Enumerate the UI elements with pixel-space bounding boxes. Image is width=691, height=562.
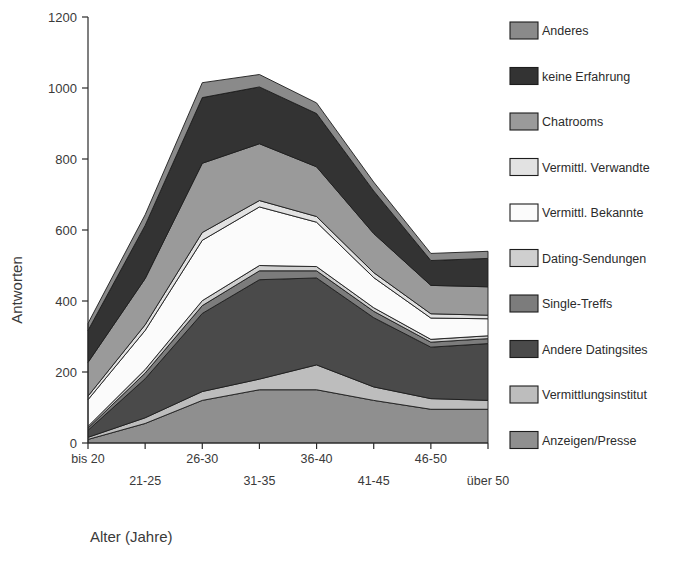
legend-label: Anzeigen/Presse [542,434,637,448]
legend-swatch [510,386,538,403]
legend-swatch [510,22,538,39]
y-tick-label: 600 [55,223,77,238]
legend-item[interactable]: Single-Treffs [510,295,612,312]
chart-canvas: 020040060080010001200 bis 2021-2526-3031… [0,0,691,562]
legend-swatch [510,295,538,312]
x-category-label: 36-40 [301,452,333,466]
legend-item[interactable]: Vermittl. Bekannte [510,204,643,221]
legend-label: Chatrooms [542,115,603,129]
legend-label: Vermittl. Bekannte [542,206,643,220]
legend-swatch [510,113,538,130]
legend-label: Single-Treffs [542,297,612,311]
legend-label: Vermittlungsinstitut [542,388,647,402]
stacked-area-chart: 020040060080010001200 bis 2021-2526-3031… [0,0,691,562]
y-tick-label: 400 [55,294,77,309]
legend-label: Andere Datingsites [542,343,648,357]
y-tick-label: 1200 [48,10,77,25]
legend: Andereskeine ErfahrungChatroomsVermittl.… [510,22,650,449]
x-axis-title: Alter (Jahre) [90,528,173,545]
legend-item[interactable]: Anzeigen/Presse [510,432,637,449]
legend-swatch [510,68,538,85]
plot-area-bands [88,75,488,443]
x-category-label: 46-50 [415,452,447,466]
x-category-labels: bis 2021-2526-3031-3536-4041-4546-50über… [71,443,509,488]
legend-label: Anderes [542,24,589,38]
legend-label: keine Erfahrung [542,70,630,84]
y-tick-labels: 020040060080010001200 [48,10,88,451]
y-tick-label: 800 [55,152,77,167]
x-category-label: über 50 [467,474,509,488]
legend-item[interactable]: Chatrooms [510,113,603,130]
legend-swatch [510,432,538,449]
legend-label: Vermittl. Verwandte [542,161,650,175]
y-axis-title: Antworten [8,256,25,324]
x-category-label: 31-35 [243,474,275,488]
y-tick-label: 0 [70,436,77,451]
legend-item[interactable]: Anderes [510,22,589,39]
legend-label: Dating-Sendungen [542,252,646,266]
x-category-label: 21-25 [129,474,161,488]
legend-swatch [510,159,538,176]
y-tick-label: 1000 [48,81,77,96]
legend-item[interactable]: keine Erfahrung [510,68,630,85]
x-category-label: 41-45 [358,474,390,488]
legend-item[interactable]: Vermittlungsinstitut [510,386,647,403]
legend-swatch [510,250,538,267]
x-category-label: bis 20 [71,452,104,466]
legend-item[interactable]: Dating-Sendungen [510,250,646,267]
x-category-label: 26-30 [186,452,218,466]
legend-item[interactable]: Andere Datingsites [510,341,648,358]
legend-swatch [510,341,538,358]
legend-swatch [510,204,538,221]
legend-item[interactable]: Vermittl. Verwandte [510,159,650,176]
y-tick-label: 200 [55,365,77,380]
